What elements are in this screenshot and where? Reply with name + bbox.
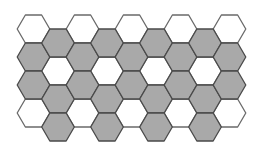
hexagon-pattern-diagram [0, 0, 262, 148]
hexagon-grid [0, 0, 262, 148]
